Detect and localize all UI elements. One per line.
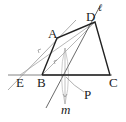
label-l: ℓ (98, 2, 102, 13)
label-b: B (37, 75, 46, 90)
line-de (20, 22, 95, 75)
label-d: D (86, 9, 95, 24)
label-a: A (48, 26, 58, 41)
label-e: E (16, 75, 24, 90)
geometry-figure: A B C D E P m ℓ (0, 0, 126, 122)
label-m: m (61, 102, 70, 117)
arrow-mark-icon (38, 49, 41, 53)
label-c: C (109, 75, 118, 90)
label-p: P (84, 87, 91, 102)
